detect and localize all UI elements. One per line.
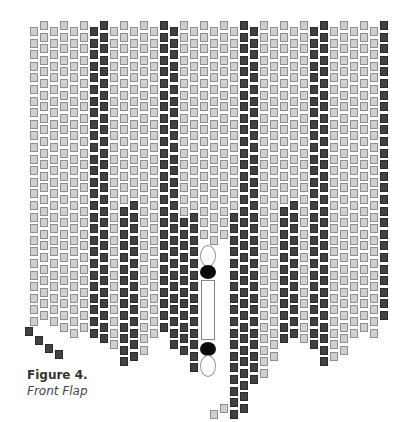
bead xyxy=(80,323,88,332)
bead xyxy=(30,166,38,175)
bead xyxy=(220,125,228,134)
bead xyxy=(150,259,158,268)
bead xyxy=(360,91,368,100)
bead xyxy=(180,137,188,146)
bead xyxy=(300,160,308,169)
bead xyxy=(300,44,308,53)
bead xyxy=(130,352,138,361)
bead xyxy=(140,311,148,320)
bead xyxy=(170,271,178,280)
bead xyxy=(160,137,168,146)
bead xyxy=(300,56,308,65)
bead xyxy=(190,305,198,314)
bead xyxy=(360,21,368,30)
bead xyxy=(260,195,268,204)
black-oval-bead xyxy=(200,342,216,356)
bead xyxy=(300,288,308,297)
bead xyxy=(150,305,158,314)
bead xyxy=(170,317,178,326)
bead xyxy=(170,259,178,268)
bead xyxy=(240,392,248,401)
bead xyxy=(300,33,308,42)
bead xyxy=(40,44,48,53)
bead xyxy=(190,85,198,94)
bead xyxy=(100,149,108,158)
bead xyxy=(340,288,348,297)
bead xyxy=(190,329,198,338)
bead xyxy=(70,247,78,256)
bead xyxy=(170,340,178,349)
bead xyxy=(310,189,318,198)
bead xyxy=(80,160,88,169)
bead xyxy=(60,79,68,88)
bead xyxy=(370,155,378,164)
bead xyxy=(50,108,58,117)
bead xyxy=(190,143,198,152)
bead xyxy=(110,340,118,349)
bead xyxy=(110,131,118,140)
bead xyxy=(310,224,318,233)
bead xyxy=(270,189,278,198)
bead xyxy=(230,143,238,152)
bead xyxy=(310,317,318,326)
bead xyxy=(270,85,278,94)
bead xyxy=(30,282,38,291)
bead xyxy=(240,311,248,320)
bead xyxy=(100,265,108,274)
bead xyxy=(290,271,298,280)
bead xyxy=(220,67,228,76)
bead xyxy=(350,178,358,187)
bead xyxy=(120,33,128,42)
bead xyxy=(180,114,188,123)
bead xyxy=(350,97,358,106)
bead xyxy=(40,137,48,146)
bead xyxy=(30,317,38,326)
bead xyxy=(280,21,288,30)
bead xyxy=(130,294,138,303)
bead xyxy=(310,62,318,71)
bead xyxy=(180,67,188,76)
bead xyxy=(210,224,218,233)
bead xyxy=(50,271,58,280)
bead xyxy=(320,56,328,65)
bead xyxy=(320,357,328,366)
bead xyxy=(360,56,368,65)
bead xyxy=(250,259,258,268)
bead xyxy=(40,21,48,30)
bead xyxy=(380,265,388,274)
bead xyxy=(50,85,58,94)
bead xyxy=(30,271,38,280)
bead xyxy=(60,56,68,65)
bead xyxy=(230,294,238,303)
bead xyxy=(120,357,128,366)
bead xyxy=(310,271,318,280)
bead xyxy=(330,294,338,303)
bead xyxy=(330,178,338,187)
bead xyxy=(300,299,308,308)
bead xyxy=(220,195,228,204)
bead xyxy=(310,50,318,59)
bead xyxy=(190,131,198,140)
bead xyxy=(200,114,208,123)
bead xyxy=(380,230,388,239)
bead xyxy=(370,201,378,210)
bead xyxy=(210,143,218,152)
bead xyxy=(370,213,378,222)
bead xyxy=(50,50,58,59)
bead xyxy=(370,294,378,303)
bead xyxy=(120,44,128,53)
bead xyxy=(320,183,328,192)
bead xyxy=(350,50,358,59)
bead xyxy=(320,33,328,42)
bead xyxy=(80,125,88,134)
bead xyxy=(230,189,238,198)
bead xyxy=(40,149,48,158)
bead xyxy=(180,253,188,262)
bead xyxy=(80,21,88,30)
bead xyxy=(300,334,308,343)
bead xyxy=(190,282,198,291)
bead xyxy=(60,102,68,111)
bead xyxy=(180,160,188,169)
bead xyxy=(330,108,338,117)
bead xyxy=(380,218,388,227)
